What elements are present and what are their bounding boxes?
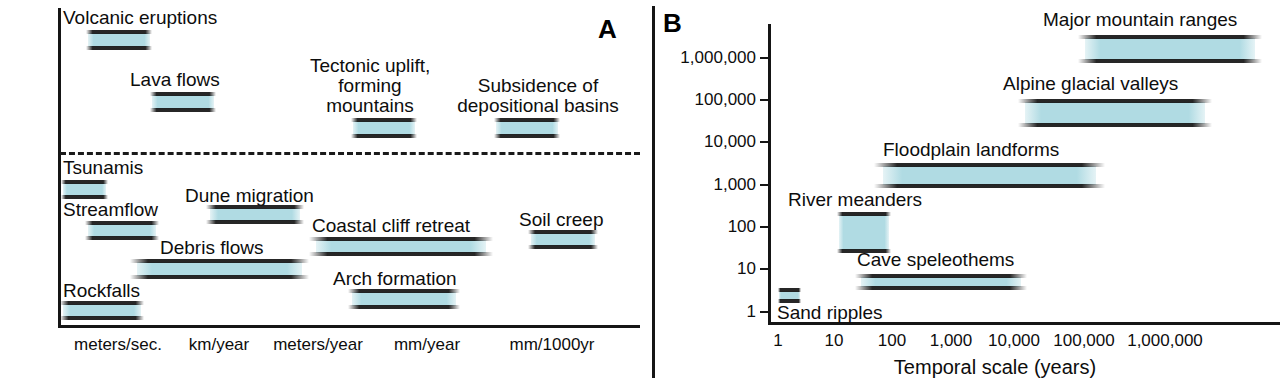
label-tectonic-uplift-line3: mountains bbox=[310, 96, 430, 116]
label-rockfalls: Rockfalls bbox=[63, 281, 140, 301]
panel-a-y-axis bbox=[58, 8, 61, 328]
panel-a-xtick-1: km/year bbox=[172, 336, 266, 354]
bar-major-mountain-ranges bbox=[1085, 38, 1255, 60]
bar-dune-migration bbox=[210, 208, 300, 221]
bar-alpine-glacial-valleys bbox=[1025, 102, 1205, 124]
panel-b-xtick-0: 1 bbox=[765, 332, 791, 350]
panel-b-y-axis bbox=[768, 24, 771, 324]
panel-b-xtick-6: 1,000,000 bbox=[1113, 332, 1217, 350]
label-streamflow: Streamflow bbox=[63, 200, 158, 220]
label-river-meanders: River meanders bbox=[788, 190, 922, 210]
label-debris-flows: Debris flows bbox=[160, 238, 263, 258]
bar-volcanic-eruptions bbox=[88, 33, 150, 47]
figure-root: A Endogenic processes Exogenic processes… bbox=[0, 0, 1285, 382]
bar-rockfalls bbox=[63, 304, 141, 317]
panel-a-x-axis bbox=[58, 325, 640, 328]
label-sand-ripples: Sand ripples bbox=[777, 303, 883, 323]
panel-b-ytick-mark-0 bbox=[760, 57, 769, 59]
label-major-mountain-ranges: Major mountain ranges bbox=[1043, 10, 1237, 30]
label-soil-creep: Soil creep bbox=[519, 210, 604, 230]
panel-b-xtick-3: 1,000 bbox=[920, 332, 982, 350]
bar-sand-ripples bbox=[779, 291, 800, 300]
label-lava-flows: Lava flows bbox=[130, 70, 220, 90]
panel-b-ytick-2: 10,000 bbox=[655, 133, 756, 151]
label-cave-speleothems: Cave speleothems bbox=[857, 250, 1014, 270]
panel-b-letter: B bbox=[663, 10, 682, 36]
label-floodplain-landforms: Floodplain landforms bbox=[883, 140, 1059, 160]
panel-b-xtick-1: 10 bbox=[817, 332, 851, 350]
bar-debris-flows bbox=[137, 262, 302, 276]
panel-a-xtick-2: meters/year bbox=[258, 336, 378, 354]
bar-tsunamis bbox=[63, 183, 106, 196]
panel-b: B Spatial scale (meters) 1,000,000 100,0… bbox=[655, 0, 1285, 382]
label-alpine-glacial-valleys: Alpine glacial valleys bbox=[1003, 74, 1178, 94]
bar-coastal-cliff-retreat bbox=[316, 240, 486, 253]
panel-a-letter: A bbox=[598, 16, 617, 42]
panel-a-group-divider bbox=[60, 152, 640, 155]
panel-b-xtick-2: 100 bbox=[871, 332, 913, 350]
label-coastal-cliff-retreat: Coastal cliff retreat bbox=[312, 216, 470, 236]
panel-b-ytick-mark-2 bbox=[760, 141, 769, 143]
label-arch-formation: Arch formation bbox=[333, 269, 457, 289]
bar-streamflow bbox=[88, 224, 156, 237]
panel-b-ytick-3: 1,000 bbox=[655, 176, 756, 194]
panel-b-ytick-1: 100,000 bbox=[655, 91, 756, 109]
panel-b-ytick-mark-4 bbox=[760, 226, 769, 228]
label-tsunamis: Tsunamis bbox=[63, 158, 143, 178]
panel-b-ytick-mark-5 bbox=[760, 268, 769, 270]
panel-b-ytick-4: 100 bbox=[655, 218, 756, 236]
panel-b-ytick-mark-3 bbox=[760, 184, 769, 186]
bar-floodplain-landforms bbox=[883, 166, 1096, 185]
bar-subsidence bbox=[496, 121, 558, 135]
panel-b-ytick-mark-1 bbox=[760, 99, 769, 101]
label-tectonic-uplift-line2: forming bbox=[310, 76, 430, 96]
bar-soil-creep bbox=[531, 233, 595, 246]
panel-a-xtick-4: mm/1000yr bbox=[487, 336, 617, 354]
panel-b-ytick-mark-6 bbox=[760, 311, 769, 313]
label-tectonic-uplift-line1: Tectonic uplift, bbox=[310, 56, 430, 76]
bar-cave-speleothems bbox=[861, 277, 1021, 287]
bar-tectonic-uplift bbox=[353, 121, 415, 135]
panel-b-ytick-5: 10 bbox=[655, 260, 756, 278]
label-subsidence-line1: Subsidence of bbox=[438, 76, 638, 96]
panel-b-ytick-6: 1 bbox=[655, 303, 756, 321]
bar-arch-formation bbox=[352, 292, 456, 306]
panel-a: A Endogenic processes Exogenic processes… bbox=[0, 0, 652, 382]
panel-a-xtick-3: mm/year bbox=[378, 336, 476, 354]
panel-b-ytick-0: 1,000,000 bbox=[655, 49, 756, 67]
label-dune-migration: Dune migration bbox=[185, 186, 314, 206]
bar-lava-flows bbox=[152, 95, 214, 109]
label-volcanic-eruptions: Volcanic eruptions bbox=[63, 8, 217, 28]
panel-b-x-axis-title: Temporal scale (years) bbox=[845, 357, 1145, 378]
panel-a-xtick-0: meters/sec. bbox=[58, 336, 178, 354]
label-subsidence-line2: depositional basins bbox=[438, 96, 638, 116]
bar-river-meanders bbox=[839, 215, 889, 250]
